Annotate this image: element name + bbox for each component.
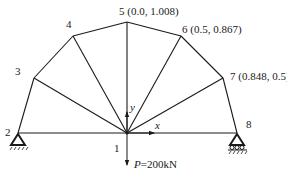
node-label-1: 1: [114, 142, 120, 154]
y-axis-label: y: [129, 101, 135, 113]
truss-diagram: 1 2 3 4 5 (0.0, 1.008) 6 (0.5, 0.867) 7 …: [0, 0, 287, 172]
x-axis-label: x: [154, 119, 160, 131]
node-label-3: 3: [15, 65, 21, 77]
load-value: =200kN: [141, 158, 177, 170]
node-1-joint: [125, 131, 128, 134]
node-label-4: 4: [66, 18, 72, 30]
pin-support-icon: [10, 134, 28, 150]
node-label-5: 5 (0.0, 1.008): [119, 5, 179, 18]
roller-support-icon: [228, 134, 247, 154]
load-label: P=200kN: [133, 158, 177, 170]
node-label-7: 7 (0.848, 0.5): [230, 70, 287, 83]
node-label-6: 6 (0.5, 0.867): [182, 23, 242, 36]
coordinate-axes: [127, 112, 154, 133]
radial-members: [34, 22, 223, 133]
node-label-2: 2: [5, 126, 11, 138]
node-label-8: 8: [246, 118, 252, 130]
